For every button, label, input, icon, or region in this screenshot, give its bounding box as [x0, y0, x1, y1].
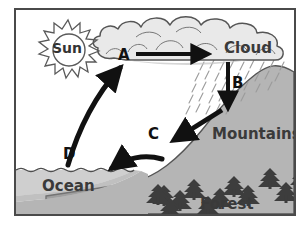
screenshot-root: Sun Cloud Mountains Forest Ocean A B C D — [0, 0, 307, 230]
marker-letter-c: C — [148, 125, 159, 143]
marker-letter-a: A — [118, 46, 130, 64]
label-forest: Forest — [200, 195, 254, 213]
marker-letter-b: B — [232, 74, 243, 92]
diagram-frame: Sun Cloud Mountains Forest Ocean A B C D — [14, 8, 296, 216]
label-mountains: Mountains — [212, 125, 296, 143]
label-sun: Sun — [52, 40, 82, 56]
marker-letter-d: D — [63, 145, 75, 163]
label-cloud: Cloud — [224, 39, 272, 57]
arrow-c-runoff-ocean — [112, 157, 162, 168]
label-ocean: Ocean — [42, 177, 95, 195]
arrow-d-evaporation — [68, 68, 120, 165]
